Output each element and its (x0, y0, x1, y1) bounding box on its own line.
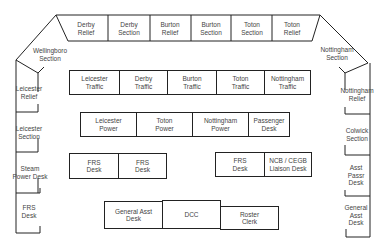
desk-general-asst-bottom: General Asst Desk (104, 201, 163, 229)
desk-burton-traffic: Burton Traffic (167, 71, 216, 94)
desk-passenger: Passenger Desk (248, 113, 289, 136)
desk-roster-clerk: Roster Clerk (220, 206, 279, 230)
desk-steam-power: Steam Power Desk (12, 165, 47, 180)
desk-burton-relief: Burton Relief (160, 21, 179, 36)
desk-general-asst-right: General Asst Desk (343, 204, 370, 227)
desk-ncb-cegb-liaison: NCB / CEGB Liaison Desk (264, 153, 311, 176)
desk-nottingham-relief: Nottingham Relief (340, 87, 373, 102)
desk-roster-clerk-label: Roster Clerk (221, 207, 278, 229)
desk-general-asst-label: General Asst Desk (105, 202, 162, 228)
desk-leicester-traffic: Leicester Traffic (70, 71, 119, 94)
desk-toton-section: Toton Section (241, 21, 263, 36)
desk-frs-left-column: FRS Desk (22, 204, 37, 219)
desk-leicester-relief: Leicester Relief (16, 85, 42, 100)
desk-derby-traffic: Derby Traffic (119, 71, 167, 94)
desk-dcc-label: DCC (163, 201, 220, 228)
desk-leicester-power: Leicester Power (81, 113, 136, 136)
frs-desk-pair-left: FRS Desk FRS Desk (69, 153, 167, 179)
control-room-diagram: Derby Relief Derby Section Burton Relief… (0, 0, 383, 248)
desk-burton-section: Burton Section (200, 21, 222, 36)
desk-nottingham-section: Nottingham Section (320, 46, 353, 61)
desk-nottingham-power: Nottingham Power (192, 113, 248, 136)
desk-nottingham-traffic: Nottingham Traffic (264, 71, 310, 94)
desk-asst-passr: Asst Passr Desk (343, 164, 370, 187)
desk-derby-relief: Derby Relief (77, 21, 94, 36)
desk-toton-power: Toton Power (136, 113, 192, 136)
desk-toton-traffic: Toton Traffic (216, 71, 264, 94)
desk-frs-3: FRS Desk (216, 153, 264, 176)
traffic-desk-row: Leicester Traffic Derby Traffic Burton T… (69, 70, 311, 95)
desk-derby-section: Derby Section (118, 21, 140, 36)
desk-wellingboro-section: Wellingboro Section (33, 47, 67, 62)
desk-colwick-section: Colwick Section (346, 127, 368, 142)
desk-toton-relief: Toton Relief (284, 21, 301, 36)
desk-dcc: DCC (162, 200, 221, 229)
desk-frs-2: FRS Desk (118, 154, 166, 178)
power-desk-row: Leicester Power Toton Power Nottingham P… (80, 112, 290, 137)
desk-frs-1: FRS Desk (70, 154, 118, 178)
frs-ncb-desk-pair: FRS Desk NCB / CEGB Liaison Desk (215, 152, 312, 177)
desk-leicester-section: Leicester Section (16, 125, 42, 140)
